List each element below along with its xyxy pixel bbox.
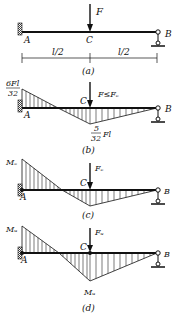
hatch-lines — [66, 190, 150, 206]
moment-a-numerator: 6Fl — [6, 79, 20, 88]
moment-c-numerator: 5 — [94, 124, 99, 133]
moment-region-negative — [22, 226, 59, 253]
moment-region-negative — [22, 89, 58, 108]
dim-right-label: l/2 — [118, 47, 130, 57]
arrowhead-icon — [87, 182, 93, 190]
point-b-label: B — [163, 250, 170, 259]
moment-a-label: Mₑ — [5, 158, 17, 167]
point-b-label: B — [163, 187, 170, 196]
hatch-lines — [26, 229, 54, 253]
fixed-support-icon — [18, 23, 22, 35]
point-a-label: A — [23, 35, 31, 45]
arrowhead-icon — [87, 245, 93, 252]
hatch-lines — [62, 108, 150, 124]
load-label: Fᵤ — [94, 228, 104, 237]
dim-left-label: l/2 — [52, 47, 64, 57]
dimension-line — [22, 53, 157, 63]
fixed-support-icon — [18, 100, 22, 112]
hatch-lines — [26, 91, 54, 108]
arrowhead-icon — [87, 24, 93, 32]
point-b-label: B — [164, 29, 172, 39]
point-a-label: A — [20, 255, 28, 265]
arrowhead-icon — [87, 100, 93, 108]
caption-a: (a) — [82, 66, 95, 76]
beam-diagram-figure: F A C B l/2 l/2 (a) 6Fl 32 — [0, 0, 176, 319]
panel-a: F A C B l/2 l/2 (a) — [18, 4, 172, 76]
load-label: F≤Fₑ — [97, 90, 119, 99]
point-b-label: B — [164, 104, 172, 114]
hatch-lines — [63, 253, 150, 281]
point-c-label: C — [80, 242, 87, 252]
load-label: Fₑ — [94, 164, 104, 173]
caption-b: (b) — [82, 145, 95, 155]
moment-c-denominator: 32 — [91, 134, 101, 143]
moment-c-suffix: Fl — [102, 130, 112, 139]
moment-a-denominator: 32 — [8, 89, 18, 98]
moment-region-positive — [62, 190, 157, 206]
panel-c: Mₑ Fₑ C A B — [5, 158, 170, 220]
moment-region-positive — [58, 108, 157, 124]
load-label: F — [95, 6, 104, 17]
panel-b: 6Fl 32 F≤Fₑ C A B — [6, 79, 172, 155]
caption-d: (d) — [82, 303, 95, 313]
moment-a-label: Mᵤ — [5, 225, 17, 234]
point-c-label: C — [80, 178, 87, 188]
panel-d: Mᵤ Fᵤ C A B — [5, 225, 170, 313]
point-c-label: C — [86, 35, 93, 45]
point-a-label: A — [23, 110, 31, 120]
point-a-label: A — [19, 192, 27, 202]
moment-c-label: Mᵤ — [83, 288, 95, 297]
caption-c: (c) — [82, 210, 95, 220]
point-c-label: C — [80, 96, 87, 106]
